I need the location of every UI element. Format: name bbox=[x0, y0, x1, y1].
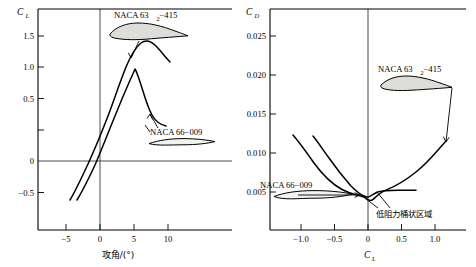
right-chart-xtick-label-5: 1.0 bbox=[430, 234, 441, 244]
left-chart-xtick-label-3: 5 bbox=[132, 234, 136, 244]
right-chart-y-axis-title-sub: D bbox=[254, 12, 260, 19]
left-chart-ytick-label-3: 0.5 bbox=[23, 94, 34, 104]
right-chart-ytick-label-2: 0.020 bbox=[247, 70, 266, 80]
drag-polar-svg: C D 0.025 0.020 0.015 0.010 0.005 −1.0 −… bbox=[238, 0, 476, 267]
right-chart-xtick-label-1: −1.0 bbox=[293, 234, 309, 244]
left-chart-x-ticks bbox=[66, 224, 168, 230]
left-chart-annotation-632-415: NACA 63 2 −415 bbox=[114, 10, 177, 22]
right-chart-y-ticks bbox=[270, 36, 276, 192]
left-chart-y-ticks bbox=[38, 36, 44, 193]
right-chart-annotation-632-415-tail: −415 bbox=[424, 64, 442, 74]
right-chart-xtick-label-4: 0.5 bbox=[396, 234, 407, 244]
right-chart-y-axis-title: C D bbox=[246, 7, 260, 19]
right-chart-x-axis-title: C L bbox=[364, 250, 376, 262]
left-chart-ytick-label-1: 1.5 bbox=[23, 31, 34, 41]
right-chart-xtick-label-3: 0 bbox=[366, 234, 370, 244]
left-chart-x-axis-title: 攻角/(°) bbox=[102, 249, 135, 260]
right-chart-annotation-bucket: 低阻力桶状区域 bbox=[376, 209, 433, 219]
left-chart-airfoil-632-415 bbox=[110, 23, 188, 40]
figure-root: C L 1.5 1.0 0.5 0 −0.5 −5 0 5 10 攻角/(°) bbox=[0, 0, 476, 267]
left-chart-annotation-66-009: NACA 66−009 bbox=[150, 127, 202, 137]
chart-panel-lift-curve: C L 1.5 1.0 0.5 0 −0.5 −5 0 5 10 攻角/(°) bbox=[0, 0, 238, 267]
right-chart-annotation-632-415: NACA 63 2 −415 bbox=[378, 64, 441, 76]
left-chart-ytick-label-2: 1.0 bbox=[23, 62, 34, 72]
right-chart-y-axis-title-main: C bbox=[246, 7, 253, 17]
right-chart-xtick-label-2: −0.5 bbox=[327, 234, 343, 244]
right-chart-leader-bucket-b bbox=[377, 192, 390, 208]
left-chart-y-axis-title-sub: L bbox=[25, 12, 30, 19]
left-chart-airfoil-66-009 bbox=[149, 139, 215, 146]
left-chart-ytick-label-4: 0 bbox=[30, 156, 34, 166]
right-chart-airfoil-632-415 bbox=[381, 76, 452, 91]
left-chart-y-axis-title: C L bbox=[17, 7, 30, 19]
right-chart-x-axis-title-sub: L bbox=[371, 255, 376, 262]
right-chart-annotation-632-415-main: NACA 63 bbox=[378, 64, 413, 74]
left-chart-annotation-632-415-tail: −415 bbox=[160, 10, 178, 20]
right-chart-ytick-label-4: 0.010 bbox=[247, 148, 266, 158]
left-chart-xtick-label-1: −5 bbox=[61, 234, 70, 244]
left-chart-xtick-label-2: 0 bbox=[98, 234, 102, 244]
chart-panel-drag-polar: C D 0.025 0.020 0.015 0.010 0.005 −1.0 −… bbox=[238, 0, 476, 267]
left-chart-annotation-632-415-main: NACA 63 bbox=[114, 10, 149, 20]
right-chart-x-ticks bbox=[301, 224, 435, 230]
left-chart-ytick-label-5: −0.5 bbox=[18, 188, 34, 198]
right-chart-ytick-label-1: 0.025 bbox=[247, 31, 266, 41]
left-chart-xtick-label-4: 10 bbox=[164, 234, 173, 244]
right-chart-annotation-66-009: NACA 66−009 bbox=[260, 180, 312, 190]
right-chart-ytick-label-3: 0.015 bbox=[247, 109, 266, 119]
right-chart-leader-632-415 bbox=[446, 88, 452, 142]
right-chart-x-axis-title-main: C bbox=[364, 250, 371, 260]
right-chart-curve-632-415 bbox=[313, 136, 416, 197]
lift-curve-svg: C L 1.5 1.0 0.5 0 −0.5 −5 0 5 10 攻角/(°) bbox=[0, 0, 238, 267]
left-chart-y-axis-title-main: C bbox=[17, 7, 24, 17]
